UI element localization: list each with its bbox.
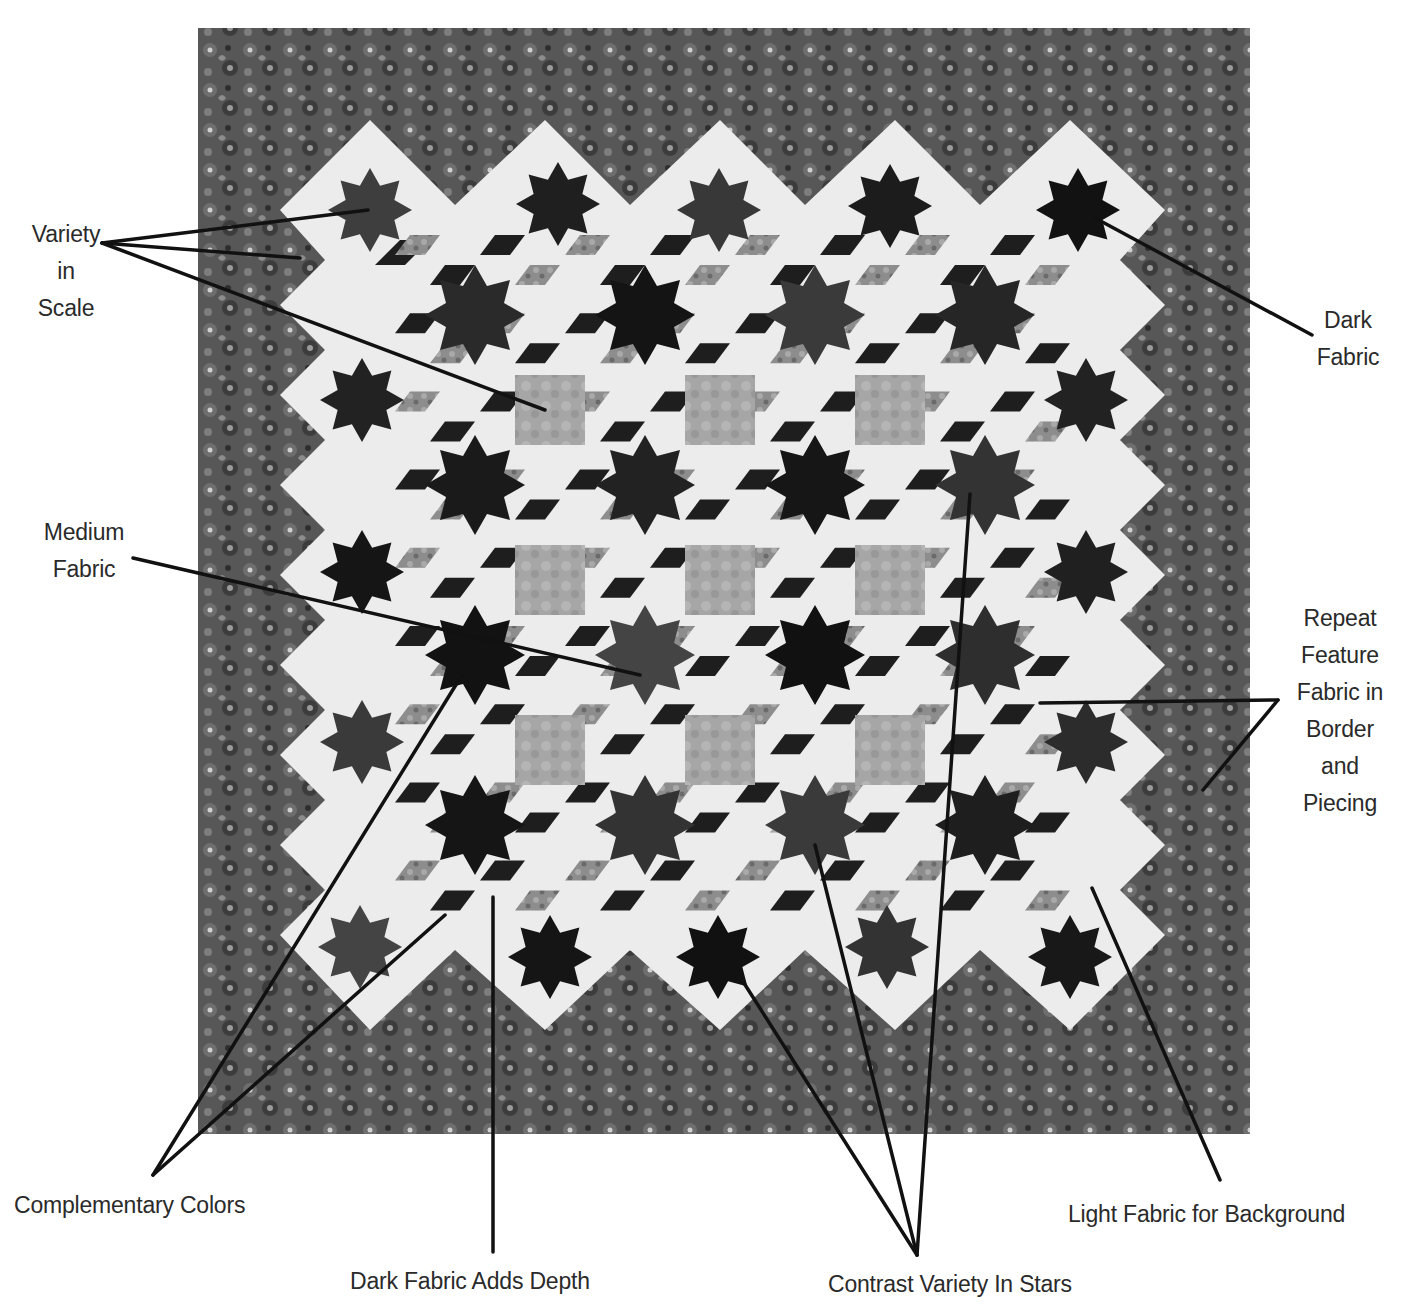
callout-text: Scale xyxy=(18,290,114,327)
center-blocks xyxy=(515,375,925,785)
callout-text: Fabric xyxy=(28,551,140,588)
callout-text: Contrast Variety In Stars xyxy=(828,1266,1072,1303)
callout-text: Fabric in xyxy=(1284,674,1396,711)
callout-text: in xyxy=(18,253,114,290)
callout-text: Piecing xyxy=(1284,785,1396,822)
callout-text: Variety xyxy=(18,216,114,253)
callout-text: and xyxy=(1284,748,1396,785)
callout-medium-fabric: Medium Fabric xyxy=(28,514,140,588)
callout-text: Border xyxy=(1284,711,1396,748)
callout-dark-fabric-adds-depth: Dark Fabric Adds Depth xyxy=(350,1263,590,1300)
callout-text: Dark xyxy=(1300,302,1396,339)
callout-complementary-colors: Complementary Colors xyxy=(14,1187,245,1224)
callout-contrast-variety-in-stars: Contrast Variety In Stars xyxy=(828,1266,1072,1303)
callout-text: Feature xyxy=(1284,637,1396,674)
callout-text: Fabric xyxy=(1300,339,1396,376)
callout-text: Light Fabric for Background xyxy=(1068,1196,1345,1233)
callout-light-fabric-background: Light Fabric for Background xyxy=(1068,1196,1345,1233)
annotated-quilt-figure: Variety in Scale Dark Fabric Medium Fabr… xyxy=(0,0,1414,1310)
callout-text: Medium xyxy=(28,514,140,551)
callout-dark-fabric: Dark Fabric xyxy=(1300,302,1396,376)
quilt-photo xyxy=(0,0,1414,1310)
callout-text: Complementary Colors xyxy=(14,1187,245,1224)
callout-repeat-feature-fabric: Repeat Feature Fabric in Border and Piec… xyxy=(1284,600,1396,822)
callout-text: Dark Fabric Adds Depth xyxy=(350,1263,590,1300)
callout-text: Repeat xyxy=(1284,600,1396,637)
callout-variety-in-scale: Variety in Scale xyxy=(18,216,114,327)
